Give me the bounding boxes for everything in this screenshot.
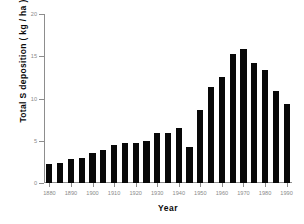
bar xyxy=(68,159,74,183)
x-axis-tick-mark xyxy=(71,183,72,187)
x-axis-tick-mark xyxy=(243,183,244,187)
x-axis-tick-label: 1910 xyxy=(108,190,120,196)
bar xyxy=(262,70,268,183)
x-axis-title: Year xyxy=(44,203,292,213)
y-axis-tick-mark xyxy=(39,99,44,100)
bar xyxy=(165,133,171,183)
bar-series xyxy=(44,14,292,183)
bar xyxy=(197,110,203,183)
x-axis-tick-label: 1960 xyxy=(216,190,228,196)
x-axis-tick-label: 1890 xyxy=(65,190,77,196)
bar xyxy=(122,143,128,183)
y-axis-tick-mark xyxy=(39,56,44,57)
bar xyxy=(100,150,106,183)
x-axis-tick-mark xyxy=(136,183,137,187)
bar xyxy=(208,87,214,183)
x-axis-tick-mark xyxy=(114,183,115,187)
x-axis-tick-mark xyxy=(265,183,266,187)
bar xyxy=(219,77,225,183)
x-axis-tick-mark xyxy=(200,183,201,187)
x-axis-tick-mark xyxy=(93,183,94,187)
x-axis-tick-label: 1990 xyxy=(280,190,292,196)
x-axis-tick-label: 1940 xyxy=(173,190,185,196)
bar xyxy=(251,63,257,183)
y-axis-tick-mark xyxy=(39,141,44,142)
y-axis-tick-label: 10 xyxy=(31,96,37,102)
x-axis-tick-mark xyxy=(222,183,223,187)
y-axis-tick-label: 15 xyxy=(31,53,37,59)
y-axis-title: Total S deposition ( kg / ha ) xyxy=(18,0,28,146)
x-axis-tick-mark xyxy=(49,183,50,187)
y-axis-tick-label: 20 xyxy=(31,11,37,17)
bar xyxy=(79,158,85,183)
x-axis-tick-label: 1930 xyxy=(151,190,163,196)
bar xyxy=(154,133,160,183)
bar xyxy=(143,141,149,183)
y-axis-tick-label: 5 xyxy=(34,138,37,144)
bar xyxy=(46,164,52,183)
bar xyxy=(89,153,95,183)
x-axis-tick-label: 1920 xyxy=(129,190,141,196)
x-axis-tick-label: 1980 xyxy=(259,190,271,196)
x-axis-tick-label: 1970 xyxy=(237,190,249,196)
x-axis-tick-mark xyxy=(287,183,288,187)
bar xyxy=(176,128,182,183)
plot-area: 05101520 1880189019001910192019301940195… xyxy=(44,14,292,183)
bar xyxy=(57,163,63,183)
bar xyxy=(111,145,117,183)
x-axis-tick-mark xyxy=(157,183,158,187)
y-axis-tick-mark xyxy=(39,183,44,184)
x-axis-tick-label: 1900 xyxy=(86,190,98,196)
y-axis-tick-mark xyxy=(39,14,44,15)
bar xyxy=(186,147,192,183)
bar xyxy=(240,49,246,183)
bar xyxy=(230,54,236,183)
bar xyxy=(284,104,290,183)
y-axis-tick-label: 0 xyxy=(34,180,37,186)
bar xyxy=(273,91,279,183)
bar xyxy=(133,143,139,183)
x-axis-tick-label: 1950 xyxy=(194,190,206,196)
x-axis-tick-mark xyxy=(179,183,180,187)
x-axis-tick-label: 1880 xyxy=(43,190,55,196)
sulfur-deposition-bar-chart: Total S deposition ( kg / ha ) 05101520 … xyxy=(0,0,304,224)
